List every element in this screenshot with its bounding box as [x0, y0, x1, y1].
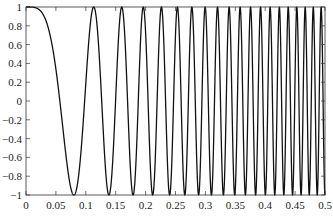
y-tick-label: −0.2	[2, 114, 22, 126]
y-tick-label: 0.2	[8, 76, 22, 88]
chart: 00.050.10.150.20.250.30.350.40.450.5 10.…	[0, 0, 333, 220]
x-tick-label: 0.3	[199, 199, 213, 211]
y-tick-label: 1	[17, 1, 23, 13]
x-tick-label: 0.1	[79, 199, 93, 211]
y-tick-label: −1	[10, 189, 22, 201]
y-tick-label: 0.4	[8, 57, 22, 69]
x-tick-label: 0.5	[318, 199, 332, 211]
x-tick-label: 0.35	[226, 199, 246, 211]
y-tick-label: 0.8	[8, 20, 22, 32]
x-tick-label: 0.05	[46, 199, 66, 211]
x-tick-label: 0.15	[106, 199, 126, 211]
y-tick-label: 0	[17, 95, 23, 107]
x-tick-label: 0.25	[166, 199, 186, 211]
x-tick-label: 0.45	[285, 199, 305, 211]
y-tick-label: −0.6	[2, 151, 22, 163]
y-tick-label: −0.4	[2, 133, 22, 145]
y-tick-label: −0.8	[2, 170, 22, 182]
y-tick-label: 0.6	[8, 39, 22, 51]
x-tick-label: 0.2	[139, 199, 153, 211]
x-tick-label: 0	[23, 199, 29, 211]
x-tick-label: 0.4	[258, 199, 272, 211]
chirp-line	[26, 7, 325, 195]
plot-area	[26, 7, 325, 195]
